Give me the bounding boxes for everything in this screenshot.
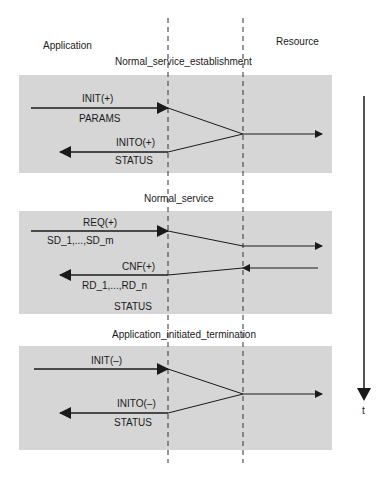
section-title-termination: Application_initiated_termination — [112, 329, 256, 340]
label-cnf-plus: CNF(+) — [122, 261, 155, 272]
label-status-1: STATUS — [115, 155, 153, 166]
label-init-minus: INIT(–) — [91, 355, 122, 366]
cnf-plus-path — [168, 268, 243, 275]
column-label-resource: Resource — [276, 36, 319, 47]
label-status-2: STATUS — [114, 301, 152, 312]
label-inito-plus: INITO(+) — [116, 137, 155, 148]
inito-plus-path — [168, 134, 243, 152]
label-init-plus: INIT(+) — [82, 93, 113, 104]
section-title-establishment: Normal_service_establishment — [115, 56, 252, 67]
inito-minus-path — [168, 394, 243, 413]
label-rd-params: RD_1,...,RD_n — [82, 280, 147, 291]
label-status-3: STATUS — [114, 417, 152, 428]
init-minus-path — [168, 369, 243, 394]
section-title-normal-service: Normal_service — [144, 193, 213, 204]
label-inito-minus: INITO(–) — [117, 398, 156, 409]
init-plus-path — [168, 108, 243, 134]
time-axis-arrowhead — [357, 388, 371, 401]
column-label-application: Application — [43, 40, 92, 51]
time-axis-label: t — [362, 405, 365, 416]
label-req-plus: REQ(+) — [83, 217, 117, 228]
label-params: PARAMS — [79, 113, 121, 124]
label-sd-params: SD_1,...,SD_m — [47, 235, 114, 246]
req-plus-path — [168, 231, 243, 246]
